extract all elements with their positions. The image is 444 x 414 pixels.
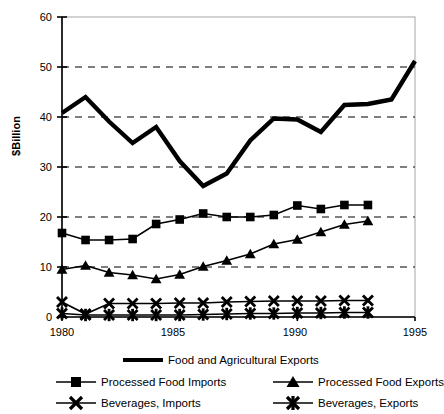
legend-item-processed-food-imports: Processed Food Imports <box>55 372 226 392</box>
legend-swatch-x-marker <box>55 395 97 411</box>
legend-item-beverages-exports: Beverages, Exports <box>272 393 418 413</box>
legend-label: Processed Food Imports <box>101 376 226 388</box>
legend-swatch-triangle-marker <box>272 374 314 390</box>
legend-swatch-thick-line <box>122 352 164 368</box>
plot-area <box>0 0 439 348</box>
chart-legend: Food and Agricultural Exports Processed … <box>0 348 439 414</box>
legend-item-beverages-imports: Beverages, Imports <box>55 393 201 413</box>
legend-label: Beverages, Imports <box>101 397 201 409</box>
series-processed-food-exports <box>57 216 374 283</box>
legend-swatch-star-marker <box>272 395 314 411</box>
legend-item-food-and-agricultural-exports: Food and Agricultural Exports <box>122 350 319 370</box>
series-processed-food-imports <box>58 201 373 245</box>
gridlines <box>62 67 415 267</box>
legend-swatch-square-marker <box>55 374 97 390</box>
legend-label: Beverages, Exports <box>318 397 418 409</box>
legend-label: Food and Agricultural Exports <box>168 354 319 366</box>
legend-label: Processed Food Exports <box>318 376 444 388</box>
legend-item-processed-food-exports: Processed Food Exports <box>272 372 444 392</box>
data-series-layer <box>57 61 415 321</box>
